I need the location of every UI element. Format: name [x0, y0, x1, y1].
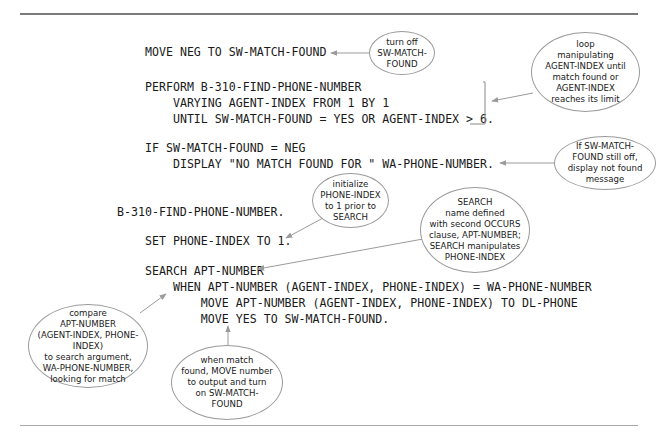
bottom-rule	[20, 425, 638, 426]
annotation-search-name: SEARCH name defined with second OCCURS c…	[420, 187, 530, 273]
code-display: DISPLAY "NO MATCH FOUND FOR " WA-PHONE-N…	[145, 157, 494, 171]
annotation-not-found: If SW-MATCH- FOUND still off, display no…	[554, 136, 656, 190]
code-set: SET PHONE-INDEX TO 1.	[145, 234, 292, 248]
code-when: WHEN APT-NUMBER (AGENT-INDEX, PHONE-INDE…	[145, 280, 592, 294]
code-move-apt: MOVE APT-NUMBER (AGENT-INDEX, PHONE-INDE…	[145, 296, 578, 310]
annotation-compare: compare APT-NUMBER (AGENT-INDEX, PHONE-I…	[28, 304, 148, 388]
code-search: SEARCH APT-NUMBER	[145, 264, 264, 278]
code-paragraph-name: B-310-FIND-PHONE-NUMBER.	[117, 205, 285, 219]
top-rule	[20, 13, 638, 15]
code-if: IF SW-MATCH-FOUND = NEG	[145, 141, 306, 155]
annotation-turn-off: turn off SW-MATCH- FOUND	[369, 31, 435, 75]
code-perform: PERFORM B-310-FIND-PHONE-NUMBER	[145, 80, 361, 94]
annotation-initialize: initialize PHONE-INDEX to 1 prior to SEA…	[312, 173, 389, 228]
code-move-yes: MOVE YES TO SW-MATCH-FOUND.	[145, 312, 389, 326]
annotation-when-match: when match found, MOVE number to output …	[171, 345, 283, 420]
code-move-neg: MOVE NEG TO SW-MATCH-FOUND	[145, 45, 326, 59]
code-until: UNTIL SW-MATCH-FOUND = YES OR AGENT-INDE…	[145, 112, 494, 126]
annotation-loop: loop manipulating AGENT-INDEX until matc…	[531, 32, 640, 112]
code-varying: VARYING AGENT-INDEX FROM 1 BY 1	[145, 96, 389, 110]
